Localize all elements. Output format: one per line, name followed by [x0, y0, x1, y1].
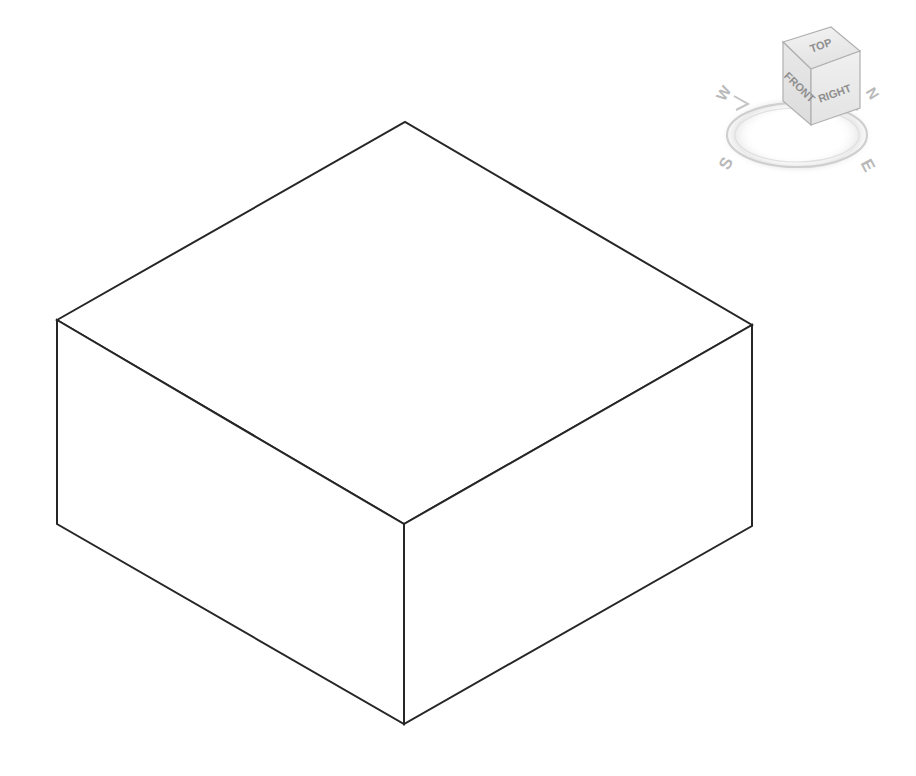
view-cube-widget[interactable]: TOP FRONT RIGHT W N S E: [700, 18, 895, 193]
3d-model-viewport[interactable]: TOP FRONT RIGHT W N S E: [0, 0, 916, 776]
compass-label-north[interactable]: N: [863, 84, 883, 102]
compass-label-west[interactable]: W: [712, 82, 734, 104]
compass-label-east[interactable]: E: [857, 156, 879, 175]
